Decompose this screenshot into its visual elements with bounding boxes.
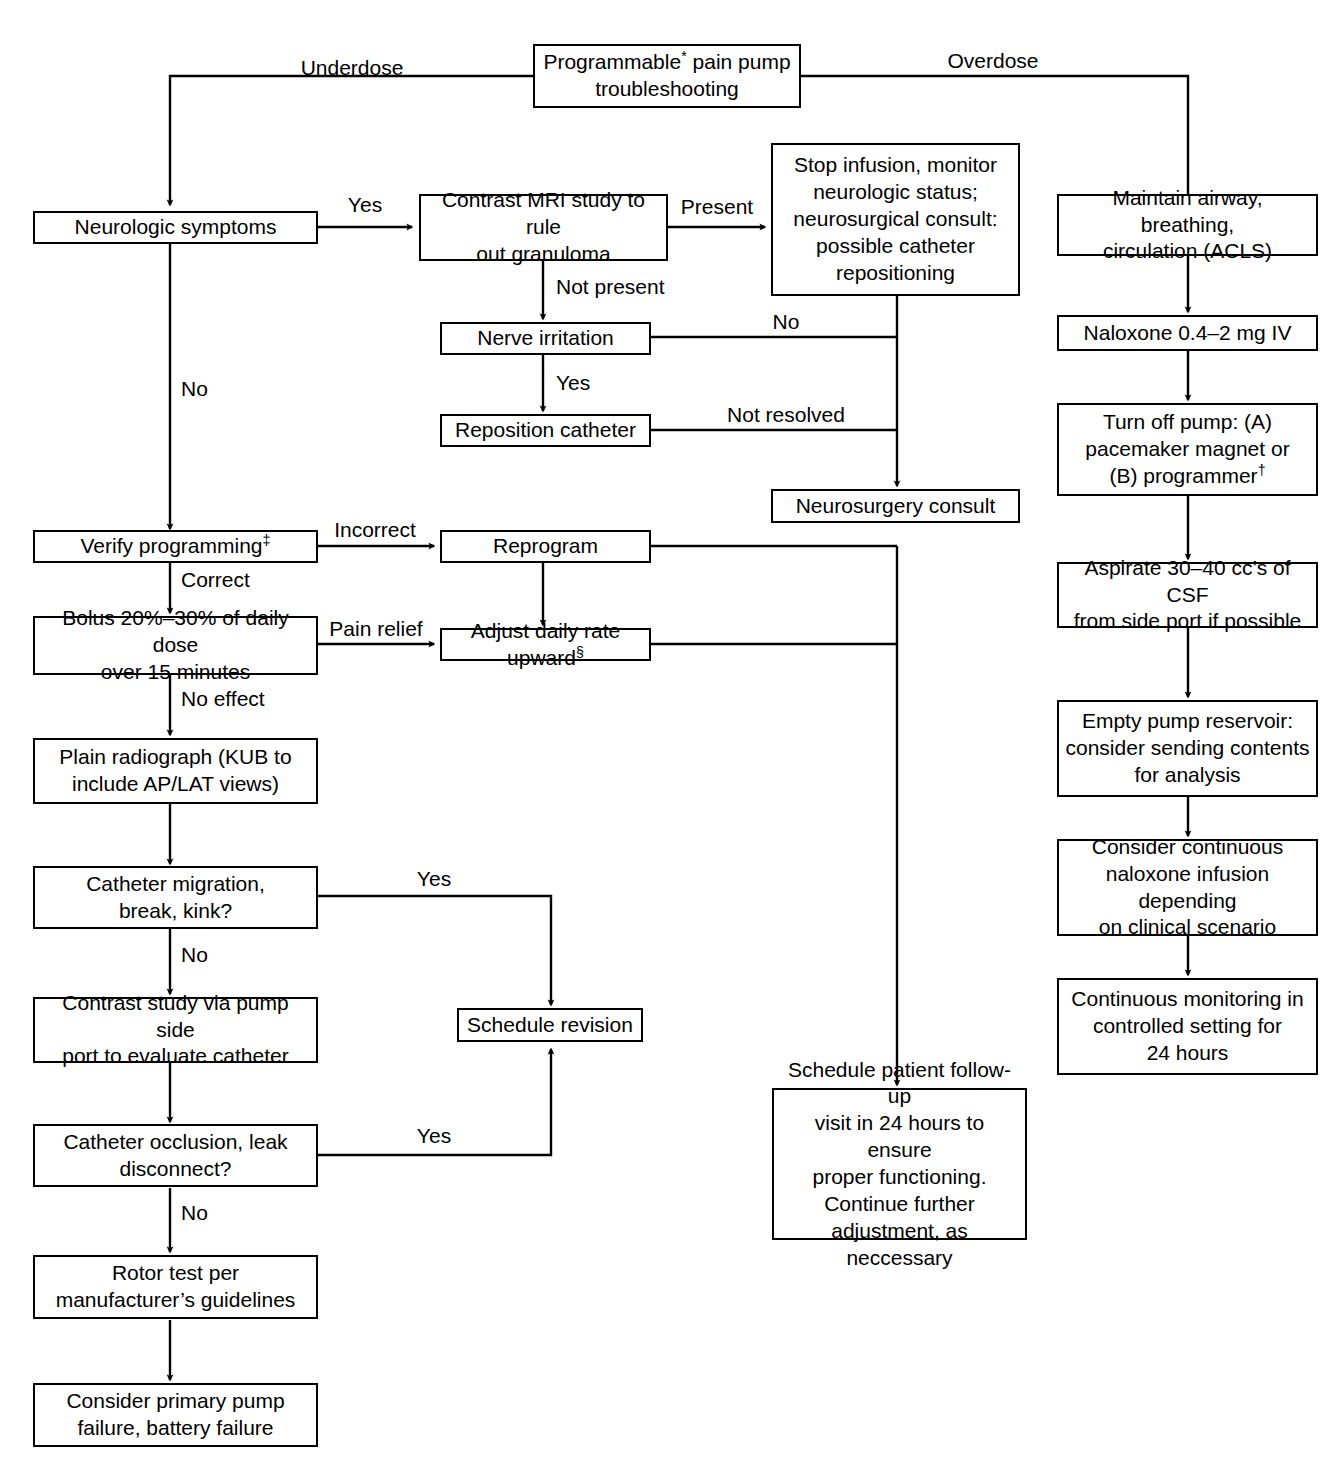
node-reposition-catheter[interactable]: Reposition catheter	[440, 414, 651, 447]
node-catheter-occlusion[interactable]: Catheter occlusion, leak disconnect?	[33, 1124, 318, 1187]
edge-label-bolus-no-effect: No effect	[181, 688, 265, 709]
edge-label-reposition-not-resolved: Not resolved	[727, 404, 845, 425]
node-naloxone[interactable]: Naloxone 0.4–2 mg IV	[1057, 315, 1318, 351]
edge-label-nerve-no: No	[773, 311, 800, 332]
node-aspirate-csf[interactable]: Aspirate 30–40 cc’s of CSF from side por…	[1057, 562, 1318, 628]
edge-label-overdose: Overdose	[947, 50, 1038, 71]
node-schedule-followup[interactable]: Schedule patient follow-up visit in 24 h…	[772, 1088, 1027, 1240]
node-root[interactable]: Programmable* pain pump troubleshooting	[533, 44, 801, 108]
node-consider-naloxone-infusion[interactable]: Consider continuous naloxone infusion de…	[1057, 839, 1318, 936]
node-stop-infusion[interactable]: Stop infusion, monitor neurologic status…	[771, 143, 1020, 296]
node-root-label: Programmable* pain pump troubleshooting	[543, 49, 790, 103]
node-catheter-migration[interactable]: Catheter migration, break, kink?	[33, 866, 318, 929]
edge-label-migration-yes: Yes	[417, 868, 451, 889]
node-contrast-mri[interactable]: Contrast MRI study to rule out granuloma	[419, 194, 668, 261]
edge-label-migration-no: No	[181, 944, 208, 965]
node-turn-off-pump-label: Turn off pump: (A) pacemaker magnet or (…	[1085, 409, 1289, 490]
node-neurosurgery-consult[interactable]: Neurosurgery consult	[771, 489, 1020, 523]
node-adjust-daily-rate-label: Adjust daily rate upward§	[448, 618, 643, 672]
edge-label-granuloma-not-present: Not present	[556, 276, 665, 297]
node-bolus[interactable]: Bolus 20%–30% of daily dose over 15 minu…	[33, 616, 318, 675]
node-primary-pump-failure[interactable]: Consider primary pump failure, battery f…	[33, 1383, 318, 1447]
node-continuous-monitoring[interactable]: Continuous monitoring in controlled sett…	[1057, 978, 1318, 1075]
node-empty-reservoir[interactable]: Empty pump reservoir: consider sending c…	[1057, 700, 1318, 797]
edge-label-bolus-pain-relief: Pain relief	[329, 618, 422, 639]
node-adjust-daily-rate[interactable]: Adjust daily rate upward§	[440, 628, 651, 661]
edge-label-nerve-yes: Yes	[556, 372, 590, 393]
node-verify-programming[interactable]: Verify programming‡	[33, 530, 318, 563]
node-rotor-test[interactable]: Rotor test per manufacturer’s guidelines	[33, 1255, 318, 1319]
edge-label-underdose: Underdose	[301, 57, 404, 78]
node-maintain-airway[interactable]: Maintain airway, breathing, circulation …	[1057, 194, 1318, 256]
edge-label-verify-incorrect: Incorrect	[334, 519, 416, 540]
edge-label-occlusion-yes: Yes	[417, 1125, 451, 1146]
node-contrast-study[interactable]: Contrast study via pump side port to eva…	[33, 997, 318, 1063]
node-turn-off-pump[interactable]: Turn off pump: (A) pacemaker magnet or (…	[1057, 403, 1318, 496]
edge-label-granuloma-present: Present	[681, 196, 753, 217]
node-reprogram[interactable]: Reprogram	[440, 530, 651, 563]
node-nerve-irritation[interactable]: Nerve irritation	[440, 322, 651, 355]
edge-label-neuro-yes: Yes	[348, 194, 382, 215]
edge-label-occlusion-no: No	[181, 1202, 208, 1223]
node-neurologic-symptoms[interactable]: Neurologic symptoms	[33, 211, 318, 244]
edge-label-neuro-no: No	[181, 378, 208, 399]
node-schedule-revision[interactable]: Schedule revision	[457, 1008, 643, 1042]
node-plain-radiograph[interactable]: Plain radiograph (KUB to include AP/LAT …	[33, 738, 318, 804]
node-verify-programming-label: Verify programming‡	[80, 533, 270, 560]
flowchart-canvas: Programmable* pain pump troubleshooting …	[0, 0, 1342, 1462]
edge-label-verify-correct: Correct	[181, 569, 250, 590]
